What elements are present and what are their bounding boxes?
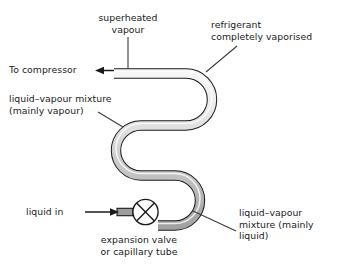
expansion-valve-symbol bbox=[133, 199, 158, 224]
label-expansion-valve: expansion valve or capillary tube bbox=[72, 234, 206, 257]
label-mixture-mainly-liquid: liquid–vapour mixture (mainly liquid) bbox=[239, 207, 339, 242]
leader-mixture-mainly-liquid bbox=[193, 211, 236, 231]
label-mixture-mainly-vapour: liquid–vapour mixture (mainly vapour) bbox=[9, 93, 133, 116]
inlet-pipe-stub bbox=[117, 208, 133, 215]
label-to-compressor: To compressor bbox=[9, 64, 95, 76]
liquid-in-arrow bbox=[85, 208, 119, 215]
to-compressor-arrow bbox=[95, 67, 114, 74]
label-superheated-vapour: superheated vapour bbox=[85, 12, 171, 35]
leader-refrigerant-vaporised bbox=[206, 46, 237, 72]
label-liquid-in: liquid in bbox=[26, 206, 82, 218]
label-refrigerant-vaporised: refrigerant completely vaporised bbox=[211, 19, 339, 42]
